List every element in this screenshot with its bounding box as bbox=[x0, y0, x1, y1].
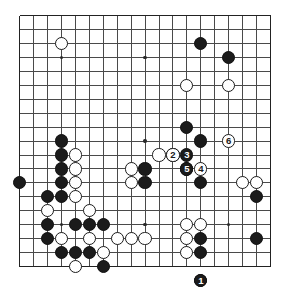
black-stone[interactable] bbox=[194, 176, 207, 189]
white-stone[interactable] bbox=[236, 176, 249, 189]
white-stone[interactable] bbox=[69, 260, 82, 273]
grid-line-vertical-16 bbox=[242, 16, 243, 267]
black-stone[interactable] bbox=[194, 37, 207, 50]
white-stone[interactable] bbox=[55, 232, 68, 245]
white-stone[interactable] bbox=[55, 37, 68, 50]
grid-line-vertical-10 bbox=[159, 16, 160, 267]
white-stone[interactable] bbox=[180, 246, 193, 259]
move-marker-2[interactable]: 2 bbox=[166, 148, 179, 161]
black-stone[interactable] bbox=[97, 218, 110, 231]
black-stone[interactable] bbox=[41, 218, 54, 231]
white-stone[interactable] bbox=[180, 218, 193, 231]
white-stone[interactable] bbox=[69, 148, 82, 161]
move-marker-5[interactable]: 5 bbox=[180, 162, 193, 175]
white-stone[interactable] bbox=[125, 176, 138, 189]
black-stone[interactable] bbox=[250, 190, 263, 203]
white-stone[interactable] bbox=[97, 246, 110, 259]
move-marker-6[interactable]: 6 bbox=[222, 134, 235, 147]
white-stone[interactable] bbox=[111, 232, 124, 245]
black-stone[interactable] bbox=[55, 190, 68, 203]
black-stone[interactable] bbox=[55, 246, 68, 259]
grid-line-vertical-14 bbox=[214, 16, 215, 267]
grid-line-vertical-11 bbox=[172, 16, 173, 267]
white-stone[interactable] bbox=[69, 162, 82, 175]
black-stone[interactable] bbox=[41, 232, 54, 245]
white-stone[interactable] bbox=[152, 148, 165, 161]
black-stone[interactable] bbox=[41, 190, 54, 203]
grid-line-horizontal-14 bbox=[20, 210, 271, 211]
grid-line-vertical-17 bbox=[256, 16, 257, 267]
white-stone[interactable] bbox=[180, 79, 193, 92]
go-board-diagram: 123456 bbox=[0, 0, 292, 302]
white-stone[interactable] bbox=[83, 204, 96, 217]
white-stone[interactable] bbox=[69, 190, 82, 203]
black-stone[interactable] bbox=[194, 232, 207, 245]
white-stone[interactable] bbox=[194, 218, 207, 231]
black-stone[interactable] bbox=[138, 176, 151, 189]
star-point-1 bbox=[143, 56, 146, 59]
black-stone[interactable] bbox=[13, 176, 26, 189]
white-stone[interactable] bbox=[138, 232, 151, 245]
grid-line-horizontal-18 bbox=[20, 266, 271, 268]
star-point-0 bbox=[60, 56, 63, 59]
black-stone[interactable] bbox=[55, 148, 68, 161]
grid-line-vertical-18 bbox=[270, 16, 272, 267]
black-stone[interactable] bbox=[55, 134, 68, 147]
white-stone[interactable] bbox=[83, 232, 96, 245]
move-marker-3[interactable]: 3 bbox=[180, 148, 193, 161]
star-point-6 bbox=[60, 223, 63, 226]
black-stone[interactable] bbox=[250, 232, 263, 245]
black-stone[interactable] bbox=[180, 121, 193, 134]
black-stone[interactable] bbox=[222, 51, 235, 64]
star-point-7 bbox=[143, 223, 146, 226]
black-stone[interactable] bbox=[69, 218, 82, 231]
black-stone[interactable] bbox=[194, 134, 207, 147]
go-board[interactable]: 123456 bbox=[0, 0, 292, 302]
black-stone[interactable] bbox=[69, 246, 82, 259]
white-stone[interactable] bbox=[180, 232, 193, 245]
white-stone[interactable] bbox=[125, 162, 138, 175]
move-marker-1[interactable]: 1 bbox=[194, 274, 207, 287]
black-stone[interactable] bbox=[83, 246, 96, 259]
star-point-4 bbox=[143, 139, 146, 142]
white-stone[interactable] bbox=[69, 176, 82, 189]
black-stone[interactable] bbox=[97, 260, 110, 273]
black-stone[interactable] bbox=[55, 162, 68, 175]
star-point-8 bbox=[227, 223, 230, 226]
black-stone[interactable] bbox=[55, 176, 68, 189]
white-stone[interactable] bbox=[250, 176, 263, 189]
white-stone[interactable] bbox=[222, 79, 235, 92]
move-marker-4[interactable]: 4 bbox=[194, 162, 207, 175]
white-stone[interactable] bbox=[41, 204, 54, 217]
black-stone[interactable] bbox=[83, 218, 96, 231]
black-stone[interactable] bbox=[194, 246, 207, 259]
white-stone[interactable] bbox=[125, 232, 138, 245]
black-stone[interactable] bbox=[138, 162, 151, 175]
